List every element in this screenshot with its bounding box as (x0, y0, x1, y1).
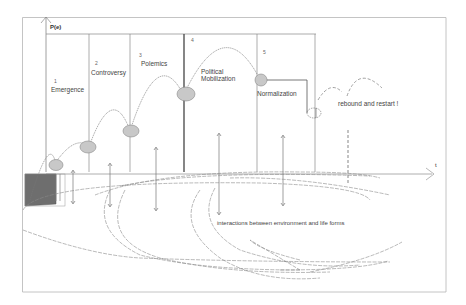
phase-2-label: Controversy (91, 69, 126, 76)
rebound-arcs (318, 78, 382, 100)
phase-node-2 (80, 141, 96, 153)
phase-3-number: 3 (139, 52, 142, 58)
phase-node-1 (49, 160, 63, 171)
phase-4-label-line-2: Mobilization (201, 75, 235, 82)
x-axis-label: t (435, 162, 437, 168)
outer-frame-lines (23, 18, 447, 293)
rebound-label: rebound and restart ! (338, 100, 398, 107)
y-axis-label: P(e) (50, 24, 61, 30)
phase-3-label: Polemics (141, 60, 167, 67)
phase-1-label: Emergence (51, 86, 84, 93)
diagram-graphics (0, 0, 466, 305)
phase-1-number: 1 (54, 78, 57, 84)
bottom-interaction-label: interactions between environment and lif… (217, 220, 344, 227)
rebound-node (307, 108, 321, 118)
phase-node-3 (123, 125, 139, 137)
origin-block (25, 174, 56, 206)
phase-5-label: Normalization (257, 90, 297, 97)
phase-node-4 (177, 87, 195, 101)
phase-5-number: 5 (263, 49, 266, 55)
phase-node-5 (255, 74, 267, 86)
environment-ellipses (23, 172, 402, 279)
phase-2-number: 2 (95, 60, 98, 66)
phase-4-number: 4 (191, 37, 194, 43)
diagram-canvas: P(e) t 1 Emergence 2 Controversy 3 Polem… (0, 0, 466, 305)
